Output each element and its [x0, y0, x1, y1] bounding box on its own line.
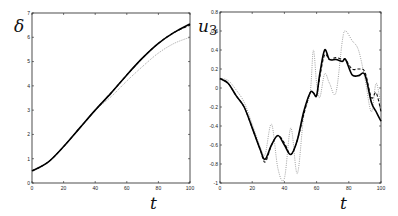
y-tick-label: 4 — [27, 83, 30, 89]
series-line-dashed — [32, 25, 190, 171]
right-axis-ticks: 020406080100-1-0.8-0.6-0.4-0.200.20.40.6… — [209, 9, 385, 191]
y-tick-label: 2 — [27, 131, 30, 137]
left-axis-ticks: 02040608010001234567 — [27, 10, 194, 191]
x-tick-label: 60 — [314, 185, 320, 191]
u3-plot: 020406080100-1-0.8-0.6-0.4-0.200.20.40.6… — [198, 9, 385, 213]
left-y-axis-label: δ — [14, 16, 24, 36]
y-tick-label: 0.4 — [211, 47, 218, 53]
x-tick-label: 0 — [219, 185, 222, 191]
y-tick-label: 1 — [27, 156, 30, 162]
x-tick-label: 20 — [61, 185, 67, 191]
y-tick-label: 0 — [215, 85, 218, 91]
series-line-solid — [32, 24, 190, 171]
delta-plot: 02040608010001234567 δ t — [14, 10, 194, 213]
y-tick-label: 6 — [27, 34, 30, 40]
y-tick-label: -0.4 — [209, 123, 218, 129]
x-tick-label: 40 — [282, 185, 288, 191]
x-tick-label: 80 — [156, 185, 162, 191]
right-y-axis-label-sub: 3 — [209, 23, 217, 38]
y-tick-label: 0.8 — [211, 9, 218, 15]
right-x-axis-label: t — [340, 193, 347, 213]
y-tick-label: 7 — [27, 10, 30, 16]
y-tick-label: 5 — [27, 58, 30, 64]
y-tick-label: -0.2 — [209, 104, 218, 110]
y-tick-label: 0 — [27, 180, 30, 186]
left-plot-lines — [32, 24, 190, 171]
right-plot-lines — [220, 31, 381, 181]
x-tick-label: 100 — [186, 185, 195, 191]
y-tick-label: -0.6 — [209, 142, 218, 148]
series-line-solid — [220, 50, 381, 160]
y-tick-label: 3 — [27, 107, 30, 113]
y-tick-label: -0.8 — [209, 161, 218, 167]
x-tick-label: 0 — [31, 185, 34, 191]
right-plot-frame — [220, 12, 381, 183]
y-tick-label: -1 — [214, 180, 219, 186]
right-y-axis-label-main: u — [198, 16, 209, 36]
x-tick-label: 100 — [377, 185, 386, 191]
x-tick-label: 60 — [124, 185, 130, 191]
y-tick-label: 0.2 — [211, 66, 218, 72]
x-tick-label: 40 — [92, 185, 98, 191]
series-line-dotted — [32, 37, 190, 171]
x-tick-label: 80 — [346, 185, 352, 191]
chart-canvas: 02040608010001234567 δ t 020406080100-1-… — [0, 0, 398, 216]
right-y-axis-label: u3 — [198, 16, 217, 38]
left-x-axis-label: t — [150, 193, 157, 213]
x-tick-label: 20 — [249, 185, 255, 191]
